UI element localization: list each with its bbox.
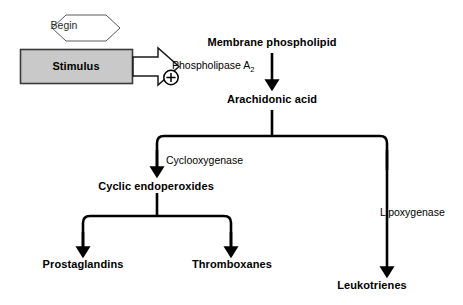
branch-bar-secondary [83,216,231,250]
cyclic-endoperoxides-label: Cyclic endoperoxides [98,181,214,192]
membrane-phospholipid-label: Membrane phospholipid [207,37,336,48]
phospholipase-enzyme-label: Phospholipase A2 [172,60,254,74]
arachidonic-acid-label: Arachidonic acid [227,94,317,105]
phospholipase-subscript: 2 [250,65,254,74]
prostaglandins-label: Prostaglandins [43,259,124,270]
phospholipase-name: Phospholipase A [172,59,250,71]
begin-node-label: Begin [51,20,78,31]
stimulus-node-label: Stimulus [52,61,99,72]
cyclooxygenase-enzyme-label: Cyclooxygenase [166,155,243,166]
pathway-diagram: Begin Stimulus Membrane phospholipid Pho… [0,0,463,305]
leukotrienes-label: Leukotrienes [337,280,407,291]
thromboxanes-label: Thromboxanes [192,259,272,270]
lipoxygenase-enzyme-label: Lipoxygenase [380,207,445,218]
